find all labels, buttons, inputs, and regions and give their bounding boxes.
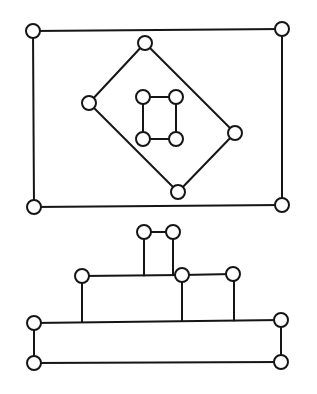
- edge-outer-br-outer-bl: [34, 205, 282, 207]
- edge-outer-tl-outer-tr: [33, 29, 282, 31]
- node-circle-mid-right: [228, 126, 242, 140]
- node-circle-inner-tr: [169, 90, 183, 104]
- nested-rectangles-graph: [26, 22, 289, 214]
- node-circle-inner-tl: [136, 90, 150, 104]
- edge-mid-top-mid-right: [145, 43, 235, 133]
- edge-mid-bottom-mid-left: [89, 103, 178, 192]
- node-circle-mid-center: [175, 268, 189, 282]
- node-circle-top-right: [166, 225, 180, 239]
- node-circle-inner-br: [169, 132, 183, 146]
- node-circle-base-tl: [27, 316, 41, 330]
- stacked-tree-graph: [27, 225, 288, 370]
- node-circle-inner-bl: [136, 132, 150, 146]
- edges-layer: [33, 29, 282, 207]
- edge-segment: [82, 275, 182, 276]
- node-circle-base-tr: [274, 313, 288, 327]
- node-circle-base-bl: [27, 356, 41, 370]
- node-circle-outer-tl: [26, 24, 40, 38]
- edge-segment: [34, 362, 281, 363]
- graph-diagram-canvas: [0, 0, 317, 394]
- node-circle-top-left: [137, 225, 151, 239]
- nodes-layer: [26, 22, 289, 214]
- edge-segment: [34, 320, 281, 323]
- node-circle-outer-tr: [275, 22, 289, 36]
- node-circle-mid-left: [75, 269, 89, 283]
- node-circle-mid-left: [82, 96, 96, 110]
- node-circle-mid-right: [226, 267, 240, 281]
- node-circle-mid-top: [138, 36, 152, 50]
- node-circle-base-br: [274, 355, 288, 369]
- node-circle-mid-bottom: [171, 185, 185, 199]
- nodes-layer: [27, 225, 288, 370]
- edges-layer: [34, 232, 281, 363]
- node-circle-outer-bl: [27, 200, 41, 214]
- node-circle-outer-br: [275, 198, 289, 212]
- edge-mid-right-mid-bottom: [178, 133, 235, 192]
- edge-outer-bl-outer-tl: [33, 31, 34, 207]
